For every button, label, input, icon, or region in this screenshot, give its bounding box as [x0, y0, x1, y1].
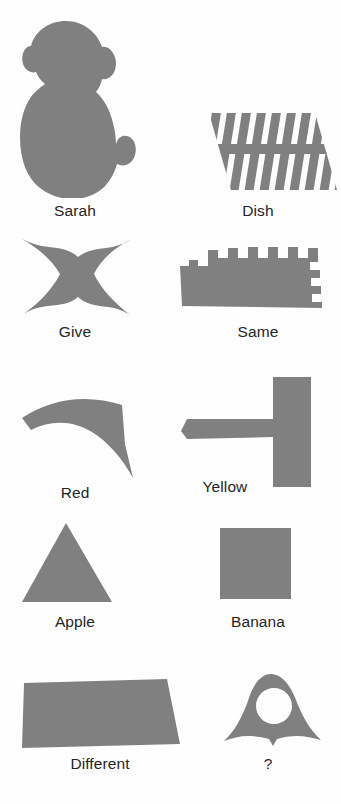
token-label-sarah: Sarah [0, 203, 150, 219]
token-card-yellow: Yellow [175, 375, 341, 505]
token-label-apple: Apple [0, 614, 150, 630]
token-label-dish: Dish [175, 203, 341, 219]
token-label-same: Same [175, 324, 341, 340]
token-card-unknown: ? [195, 670, 341, 785]
token-label-different: Different [0, 756, 200, 772]
token-card-dish: Dish [175, 18, 341, 223]
token-card-red: Red [0, 390, 150, 505]
token-label-red: Red [0, 485, 150, 501]
token-lexicon-figure: Sarah [0, 0, 341, 804]
token-card-give: Give [0, 236, 150, 346]
curved-chevron-token [0, 390, 150, 480]
token-card-same: Same [175, 236, 341, 346]
token-card-banana: Banana [175, 518, 341, 633]
token-label-unknown: ? [195, 756, 341, 772]
monkey-silhouette-token [0, 18, 150, 198]
token-label-banana: Banana [175, 614, 341, 630]
token-label-give: Give [0, 324, 150, 340]
bowtie-token [0, 236, 150, 318]
triangle-token [0, 518, 150, 608]
token-card-different: Different [0, 670, 190, 785]
token-label-yellow: Yellow [175, 479, 275, 495]
striped-parallelogram-token [175, 18, 341, 198]
quadrilateral-token [0, 670, 190, 755]
token-card-sarah: Sarah [0, 18, 150, 223]
square-token [175, 518, 341, 608]
castellated-block-token [175, 236, 341, 318]
rotated-tee-token [175, 375, 341, 490]
bell-with-hole-token [195, 670, 341, 755]
token-card-apple: Apple [0, 518, 150, 633]
